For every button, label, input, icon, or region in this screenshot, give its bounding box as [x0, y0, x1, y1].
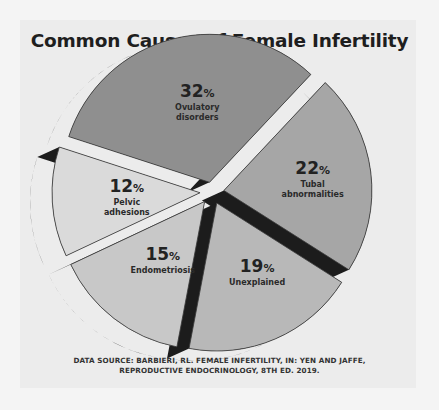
wedge-label-pelvic-adhesions: adhesions	[104, 208, 150, 217]
wedge-label-tubal-abnormalities: Tubal	[301, 180, 325, 189]
wedge-label-unexplained: Unexplained	[229, 278, 286, 287]
wedge-label-endometriosis: Endometriosis	[131, 266, 196, 275]
data-source-note: DATA SOURCE: BARBIERI, RL. FEMALE INFERT…	[0, 356, 439, 376]
source-line-2: REPRODUCTIVE ENDOCRINOLOGY, 8TH ED. 2019…	[0, 366, 439, 376]
wedge-label-ovulatory-disorders: disorders	[176, 113, 219, 122]
wedge-label-ovulatory-disorders: Ovulatory	[175, 103, 220, 112]
wedge-label-pelvic-adhesions: Pelvic	[113, 198, 140, 207]
wedge-label-tubal-abnormalities: abnormalities	[282, 190, 344, 199]
pie-chart: 32%Ovulatorydisorders22%Tubalabnormaliti…	[0, 0, 439, 410]
source-line-1: DATA SOURCE: BARBIERI, RL. FEMALE INFERT…	[0, 356, 439, 366]
